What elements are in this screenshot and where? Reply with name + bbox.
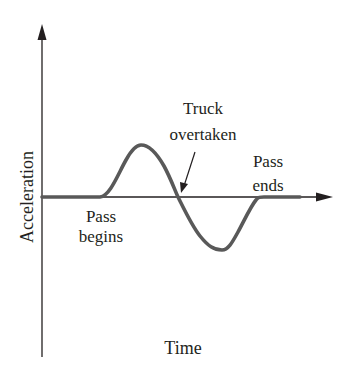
truck-overtaken-label-line2: overtaken	[169, 125, 237, 144]
truck-overtaken-label-line1: Truck	[183, 99, 223, 118]
y-axis-arrow-icon	[38, 24, 47, 40]
acceleration-time-diagram: Acceleration Time Pass begins Truck over…	[0, 0, 344, 375]
x-axis-arrow-icon	[316, 193, 333, 202]
pass-ends-label-line2: ends	[252, 176, 283, 195]
pass-begins-label-line2: begins	[79, 227, 123, 246]
pass-ends-label-line1: Pass	[253, 152, 283, 171]
pass-begins-label-line1: Pass	[86, 207, 116, 226]
x-axis-label: Time	[164, 338, 201, 358]
overtaken-pointer-line	[184, 152, 195, 186]
overtaken-pointer-arrow-icon	[180, 182, 188, 193]
y-axis-label: Acceleration	[17, 151, 37, 243]
